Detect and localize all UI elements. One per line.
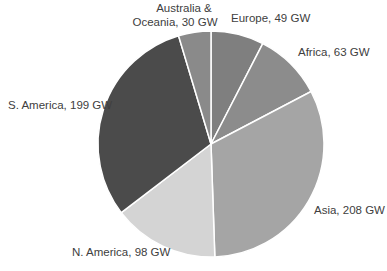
label-europe: Europe, 49 GW	[231, 11, 310, 25]
pie-chart	[0, 0, 387, 271]
label-africa: Africa, 63 GW	[298, 45, 370, 59]
label-asia: Asia, 208 GW	[314, 203, 385, 217]
label-australia-line2: Oceania, 30 GW	[116, 15, 234, 29]
label-s-america: S. America, 199 GW	[8, 98, 112, 112]
label-australia-line1: Australia &	[134, 1, 234, 15]
label-n-america: N. America, 98 GW	[72, 245, 170, 259]
label-australia-oceania: Australia & Oceania, 30 GW	[134, 1, 234, 29]
